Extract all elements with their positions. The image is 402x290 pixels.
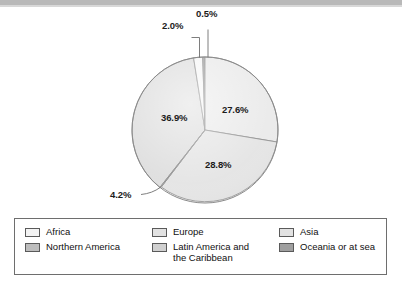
legend-swatch-oceania	[279, 243, 294, 252]
legend-item-latin-america[interactable]: Latin America and the Caribbean	[152, 241, 279, 264]
legend-label-africa: Africa	[46, 226, 70, 238]
slice-label-africa: 36.9%	[161, 112, 187, 123]
legend-item-oceania[interactable]: Oceania or at sea	[279, 241, 383, 264]
pie-sheen-overlay	[132, 57, 278, 203]
legend-swatch-africa	[25, 228, 40, 237]
legend-label-asia: Asia	[300, 226, 318, 238]
slice-label-asia: 27.6%	[222, 104, 248, 115]
legend-label-latin-america: Latin America and the Caribbean	[173, 241, 249, 264]
leader-line-northern-america	[141, 187, 161, 194]
chart-legend: Africa Europe Asia Northern America Lati…	[14, 218, 387, 275]
slice-label-oceania: 0.5%	[196, 8, 217, 19]
legend-label-europe: Europe	[173, 226, 204, 238]
legend-item-northern-america[interactable]: Northern America	[25, 241, 152, 264]
slice-label-northern-america: 4.2%	[110, 189, 131, 200]
legend-grid: Africa Europe Asia Northern America Lati…	[25, 226, 383, 264]
slice-label-latin-america: 28.8%	[205, 159, 231, 170]
legend-swatch-northern-america	[25, 243, 40, 252]
legend-item-europe[interactable]: Europe	[152, 226, 279, 238]
slice-label-europe: 2.0%	[162, 20, 183, 31]
pie-chart-svg	[0, 7, 402, 212]
leader-line-oceania	[192, 38, 200, 58]
chart-page: 27.6% 28.8% 36.9% 2.0% 4.2% 0.5% Africa …	[0, 0, 402, 290]
legend-label-oceania: Oceania or at sea	[300, 241, 375, 253]
legend-label-northern-america: Northern America	[46, 241, 120, 253]
legend-item-asia[interactable]: Asia	[279, 226, 383, 238]
pie-chart-area: 27.6% 28.8% 36.9% 2.0% 4.2% 0.5%	[0, 7, 402, 212]
legend-swatch-latin-america	[152, 243, 167, 252]
legend-swatch-asia	[279, 228, 294, 237]
legend-item-africa[interactable]: Africa	[25, 226, 152, 238]
legend-swatch-europe	[152, 228, 167, 237]
